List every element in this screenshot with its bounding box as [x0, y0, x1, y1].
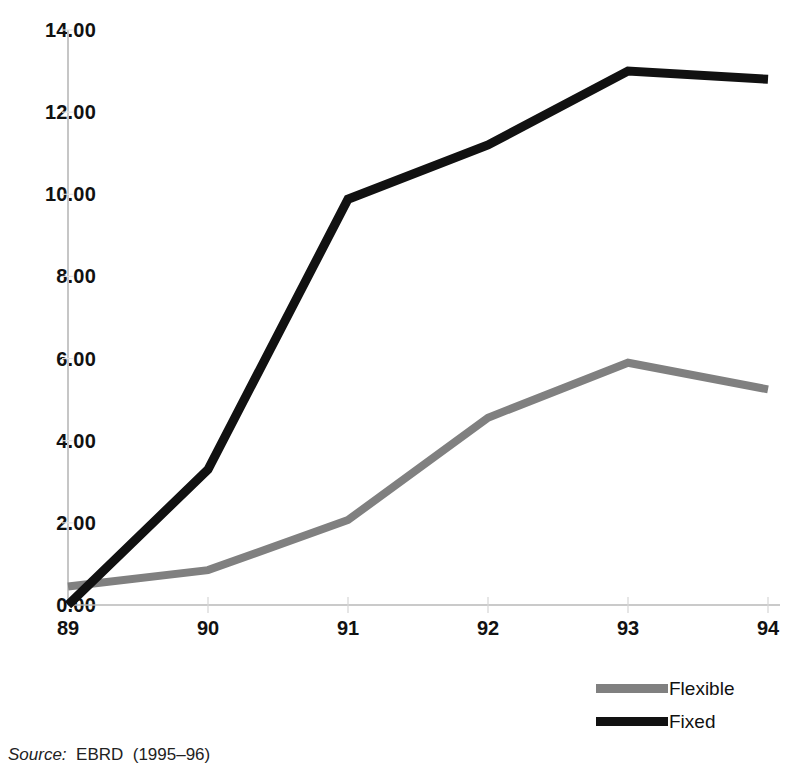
plot-area: [0, 0, 801, 660]
series-line-flexible: [68, 363, 768, 587]
x-axis-tick-labels: 899091929394: [0, 618, 801, 658]
legend-item-flexible: Flexible: [596, 672, 801, 705]
legend-swatch-fixed: [596, 717, 668, 726]
x-tick-label: 93: [598, 618, 658, 638]
x-tick-label: 91: [318, 618, 378, 638]
legend-label-fixed: Fixed: [669, 712, 715, 731]
x-tick-label: 92: [458, 618, 518, 638]
x-tick-label: 94: [738, 618, 798, 638]
series-line-fixed: [68, 71, 768, 605]
source-label: Source:: [8, 745, 67, 764]
legend-label-flexible: Flexible: [669, 679, 734, 698]
source-text: EBRD (1995–96): [67, 745, 211, 764]
legend-item-fixed: Fixed: [596, 705, 801, 738]
legend-swatch-flexible: [596, 684, 668, 693]
x-tick-label: 89: [38, 618, 98, 638]
chart-figure: 0.002.004.006.008.0010.0012.0014.00 8990…: [0, 0, 801, 784]
source-note: Source: EBRD (1995–96): [8, 745, 210, 765]
x-tick-label: 90: [178, 618, 238, 638]
chart-legend: Flexible Fixed: [596, 672, 801, 738]
